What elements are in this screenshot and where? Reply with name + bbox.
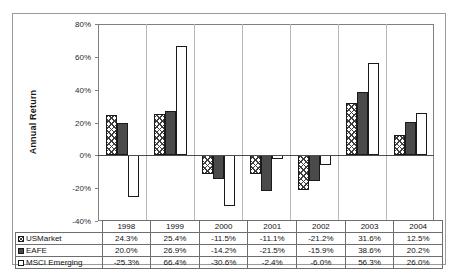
legend-item-eafe: EAFE	[16, 245, 103, 257]
table-value-cell: -21.5%	[248, 245, 297, 257]
y-axis-title: Annual Return	[28, 90, 38, 155]
bar[interactable]	[357, 92, 368, 155]
bar-slot	[261, 24, 272, 221]
bar-slot	[154, 24, 165, 221]
table-value-cell: -30.6%	[199, 257, 248, 269]
bar[interactable]	[346, 103, 357, 155]
bar[interactable]	[250, 155, 261, 173]
table-row: EAFE20.0%26.9%-14.2%-21.5%-15.9%38.6%20.…	[16, 245, 443, 257]
bar-slot	[213, 24, 224, 221]
table-value-cell: 38.6%	[345, 245, 394, 257]
table-value-cell: 20.0%	[102, 245, 151, 257]
bar-slot	[202, 24, 213, 221]
bar-slot	[320, 24, 331, 221]
bar[interactable]	[309, 155, 320, 181]
bar-group	[98, 24, 146, 221]
bar[interactable]	[154, 114, 165, 156]
bar[interactable]	[394, 135, 405, 156]
bar[interactable]	[128, 155, 139, 197]
table-value-cell: 31.6%	[345, 233, 394, 245]
bar[interactable]	[176, 46, 187, 155]
bar[interactable]	[368, 63, 379, 155]
table-value-cell: 56.3%	[345, 257, 394, 269]
table-value-cell: 24.3%	[102, 233, 151, 245]
bar-slot	[128, 24, 139, 221]
bar-group	[386, 24, 434, 221]
legend-swatch-icon	[18, 260, 24, 266]
bar-group	[290, 24, 338, 221]
table-year-header: 2000	[199, 221, 248, 233]
legend-item-msci-emerging: MSCI Emerging	[16, 257, 103, 269]
table-value-cell: -11.1%	[248, 233, 297, 245]
table-year-header: 2001	[248, 221, 297, 233]
table-row: MSCI Emerging-25.3%66.4%-30.6%-2.4%-6.0%…	[16, 257, 443, 269]
y-axis-tick-label: 0%	[49, 151, 91, 160]
table-value-cell: -14.2%	[199, 245, 248, 257]
bar-slot	[357, 24, 368, 221]
legend-label: USMarket	[26, 234, 62, 243]
bar-slot	[176, 24, 187, 221]
bar-slot	[346, 24, 357, 221]
table-value-cell: -6.0%	[297, 257, 346, 269]
bar-slot	[298, 24, 309, 221]
bar-group	[146, 24, 194, 221]
chart-figure: Annual Return 80%60%40%20%0%-20%-40% 199…	[12, 13, 446, 265]
bar-slot	[117, 24, 128, 221]
bar-slot	[272, 24, 283, 221]
bar[interactable]	[416, 113, 427, 156]
bar[interactable]	[106, 115, 117, 155]
y-axis-tick-label: 80%	[49, 20, 91, 29]
table-value-cell: -21.2%	[297, 233, 346, 245]
y-axis-tick-label: 40%	[49, 85, 91, 94]
table-year-header: 2002	[297, 221, 346, 233]
table-year-header: 2003	[345, 221, 394, 233]
bar[interactable]	[202, 155, 213, 174]
table-header-row: 1998199920002001200220032004	[16, 221, 443, 233]
table-year-header: 2004	[394, 221, 443, 233]
bar[interactable]	[405, 122, 416, 155]
table-corner-cell	[16, 221, 103, 233]
bar[interactable]	[117, 123, 128, 156]
zero-baseline	[98, 155, 434, 156]
y-axis-tick-label: -20%	[49, 184, 91, 193]
legend-swatch-icon	[18, 248, 24, 254]
bar-slot	[250, 24, 261, 221]
bar-slot	[106, 24, 117, 221]
table-year-header: 1999	[151, 221, 200, 233]
bar-slot	[309, 24, 320, 221]
bar[interactable]	[298, 155, 309, 190]
bar-group	[194, 24, 242, 221]
table-value-cell: 26.0%	[394, 257, 443, 269]
table-value-cell: -15.9%	[297, 245, 346, 257]
bar-slot	[394, 24, 405, 221]
table-value-cell: -11.5%	[199, 233, 248, 245]
bar-slot	[165, 24, 176, 221]
legend-label: EAFE	[26, 246, 47, 255]
table-value-cell: 66.4%	[151, 257, 200, 269]
table-value-cell: 12.5%	[394, 233, 443, 245]
legend-label: MSCI Emerging	[26, 258, 82, 267]
bar-group	[242, 24, 290, 221]
bar-slot	[405, 24, 416, 221]
bar-group	[338, 24, 386, 221]
table-value-cell: 25.4%	[151, 233, 200, 245]
y-axis-tick-label: 60%	[49, 52, 91, 61]
table-value-cell: 20.2%	[394, 245, 443, 257]
bar-slot	[368, 24, 379, 221]
legend-item-usmarket: USMarket	[16, 233, 103, 245]
data-table: 1998199920002001200220032004USMarket24.3…	[15, 220, 443, 269]
bar[interactable]	[320, 155, 331, 165]
bar[interactable]	[165, 111, 176, 155]
bar[interactable]	[224, 155, 235, 205]
table-row: USMarket24.3%25.4%-11.5%-11.1%-21.2%31.6…	[16, 233, 443, 245]
legend-swatch-icon	[18, 236, 24, 242]
bar-slot	[224, 24, 235, 221]
table-year-header: 1998	[102, 221, 151, 233]
table-value-cell: -2.4%	[248, 257, 297, 269]
table-value-cell: 26.9%	[151, 245, 200, 257]
plot-region	[98, 24, 434, 221]
bar[interactable]	[213, 155, 224, 178]
bar[interactable]	[261, 155, 272, 190]
y-axis-tick-label: 20%	[49, 118, 91, 127]
bar-slot	[416, 24, 427, 221]
